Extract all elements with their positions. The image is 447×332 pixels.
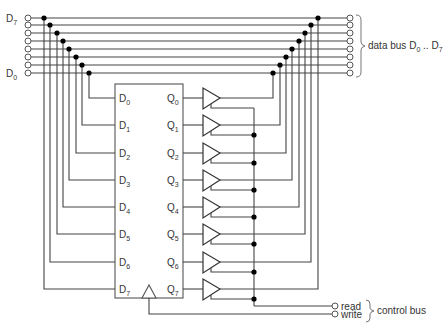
label-d7-left: D7 [6,13,17,26]
left-bus-terminals [25,15,31,76]
read-terminal [332,303,338,309]
label-d0-left: D0 [6,68,17,81]
data-bus-label: data bus D0 .. D7 [368,40,443,53]
control-bus-label: control bus [377,305,426,316]
buffer-enable-wires [211,104,332,306]
input-junction-dots [41,15,91,75]
q-to-buffer-wires [183,98,203,289]
right-bus-terminals [347,15,353,76]
input-wires [44,18,115,289]
control-bus-brace [366,300,374,322]
output-wires [220,18,318,289]
write-terminal [332,311,338,317]
data-bus-brace [356,15,365,77]
output-junction-dots [270,15,320,75]
register-bus-schematic: D7 D0 data bus D0 .. D7 D0 D1 [0,0,447,332]
write-label-text: write [340,309,363,320]
data-bus-lines [31,18,347,73]
